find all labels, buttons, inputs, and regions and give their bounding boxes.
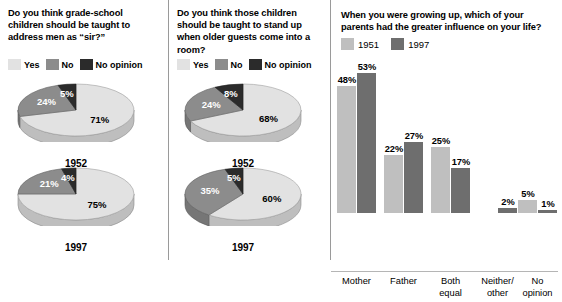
panel-standup-question: Do you think those children should be ta… [168, 0, 330, 260]
pie-chart-1997-sir: 75%21%4%1997 [14, 164, 138, 226]
legend-swatch-icon [46, 59, 59, 70]
pie-slice-label: 4% [61, 172, 75, 183]
bar-plot-area: MotherFatherBothequalNeither/otherNoopin… [331, 58, 558, 214]
pie-graphic: 68%24%8% [181, 80, 305, 142]
panel-b-legend: YesNoNo opinion [177, 59, 313, 70]
panel-a-legend: YesNoNo opinion [8, 59, 144, 70]
pie-slice-label: 8% [224, 88, 238, 99]
bar-group: 5%1% [518, 58, 557, 214]
legend-item-1951: 1951 [341, 38, 379, 50]
legend-swatch-icon [8, 59, 21, 70]
pie-graphic: 71%24%5% [14, 80, 138, 142]
bar-group: 25%17% [431, 58, 470, 214]
legend-label: No opinion [96, 60, 143, 70]
bar-value-label: 5% [511, 189, 545, 199]
panel-c-legend: 19511997 [341, 38, 429, 50]
legend-label: 1997 [408, 39, 429, 50]
pie-slice-label: 24% [37, 96, 56, 107]
bar-value-label: 1% [531, 199, 562, 209]
pie-slice-label: 60% [262, 193, 281, 204]
bar-1951 [337, 86, 356, 213]
panel-sir-question: Do you think grade-school children shoul… [0, 0, 168, 260]
x-axis-line [331, 271, 558, 272]
pie-slice-label: 5% [60, 88, 74, 99]
bar-1997 [357, 73, 376, 213]
x-axis-label-line2: opinion [508, 288, 562, 300]
legend-item-no: No [215, 59, 244, 70]
panel-b-question: Do you think those children should be ta… [177, 7, 327, 56]
pie-chart-1952-sir: 71%24%5%1952 [14, 80, 138, 142]
x-axis-label: Noopinion [508, 276, 562, 299]
bar-1997 [538, 210, 557, 213]
pie-graphic: 60%35%5% [181, 164, 305, 226]
legend-swatch-icon [391, 38, 404, 50]
pie-year-label: 1997 [181, 242, 305, 253]
panel-c-question: When you were growing up, which of your … [341, 9, 555, 33]
legend-label: Yes [193, 60, 209, 70]
pie-year-label: 1997 [14, 242, 138, 253]
x-axis-labels: MotherFatherBothequalNeither/otherNoopin… [331, 274, 558, 302]
legend-item-no-opinion: No opinion [249, 59, 313, 70]
pie-chart-1952-standup: 68%24%8%1952 [181, 80, 305, 142]
legend-item-no-opinion: No opinion [80, 59, 144, 70]
legend-label: No [62, 60, 74, 70]
bar-1997 [404, 142, 423, 213]
pie-slice-label: 75% [88, 199, 107, 210]
legend-label: Yes [24, 60, 40, 70]
legend-item-no: No [46, 59, 75, 70]
legend-swatch-icon [177, 59, 190, 70]
x-axis-label-line1: No [508, 276, 562, 288]
legend-swatch-icon [80, 59, 93, 70]
legend-label: No [231, 60, 243, 70]
legend-swatch-icon [249, 59, 262, 70]
pie-slice-label: 24% [202, 99, 221, 110]
legend-item-1997: 1997 [391, 38, 429, 50]
pie-slice-label: 35% [200, 185, 219, 196]
pie-graphic: 75%21%4% [14, 164, 138, 226]
bar-value-label: 25% [424, 136, 458, 146]
bar-1951 [384, 155, 403, 213]
panel-parental-influence: When you were growing up, which of your … [330, 0, 557, 260]
panel-a-question: Do you think grade-school children shoul… [8, 7, 160, 44]
pie-slice-label: 71% [90, 114, 109, 125]
pie-chart-1997-standup: 60%35%5%1997 [181, 164, 305, 226]
bar-group: 22%27% [384, 58, 423, 214]
pie-slice-label: 68% [259, 113, 278, 124]
legend-label: 1951 [358, 39, 379, 50]
pie-slice-label: 21% [40, 178, 59, 189]
legend-item-yes: Yes [8, 59, 41, 70]
pie-slice-label: 5% [227, 172, 241, 183]
legend-swatch-icon [215, 59, 228, 70]
legend-swatch-icon [341, 38, 354, 50]
bar-value-label: 17% [444, 157, 478, 167]
bar-value-label: 53% [350, 62, 384, 72]
legend-item-yes: Yes [177, 59, 210, 70]
bar-1997 [451, 168, 470, 213]
legend-label: No opinion [265, 60, 312, 70]
bar-group: 48%53% [337, 58, 376, 214]
bar-1997 [498, 208, 517, 213]
